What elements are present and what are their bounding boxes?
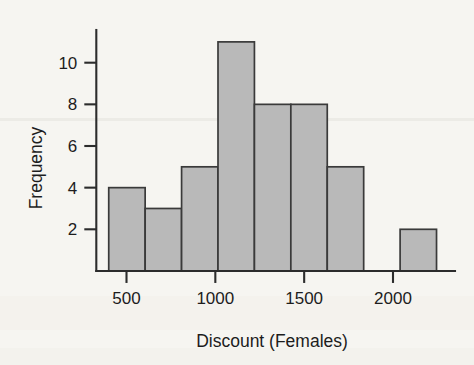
histogram-bar xyxy=(254,104,290,271)
bars-group xyxy=(109,42,437,271)
y-tick-label: 2 xyxy=(68,220,77,239)
x-tick-label: 500 xyxy=(112,289,140,308)
histogram-bar xyxy=(109,188,145,271)
histogram-bar xyxy=(218,42,254,271)
y-tick-label: 4 xyxy=(68,179,77,198)
y-tick-label: 8 xyxy=(68,95,77,114)
x-tick-label: 1500 xyxy=(285,289,323,308)
histogram-bar xyxy=(327,167,363,271)
histogram-bar xyxy=(400,229,436,271)
x-tick-label: 2000 xyxy=(374,289,412,308)
histogram-bar xyxy=(182,167,218,271)
y-tick-group: 246810 xyxy=(58,54,96,240)
histogram-bar xyxy=(145,208,181,270)
y-tick-label: 6 xyxy=(68,137,77,156)
histogram-bar xyxy=(291,104,327,271)
x-tick-group: 500100015002000 xyxy=(112,271,412,308)
y-axis-title: Frequency xyxy=(26,126,46,209)
x-tick-label: 1000 xyxy=(196,289,234,308)
plot-area: 500100015002000 246810 Discount (Females… xyxy=(0,0,474,365)
y-tick-label: 10 xyxy=(58,54,77,73)
histogram-chart: 500100015002000 246810 Discount (Females… xyxy=(0,0,474,365)
x-axis-title: Discount (Females) xyxy=(196,331,348,351)
